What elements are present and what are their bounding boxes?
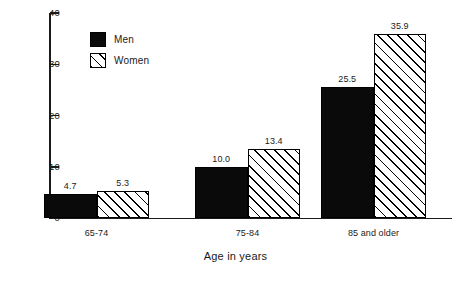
legend: Men Women: [90, 29, 149, 71]
x-axis-title: Age in years: [0, 250, 471, 262]
bar-women-2: [374, 34, 427, 218]
bar-value-label: 4.7: [44, 181, 97, 191]
diagonal-hatch-swatch-icon: [90, 53, 106, 68]
bar-men-2: [321, 87, 374, 218]
legend-label-men: Men: [114, 34, 134, 45]
bar-men-1: [195, 167, 248, 218]
bar-value-label: 25.5: [321, 74, 374, 84]
bar-value-label: 10.0: [195, 154, 248, 164]
bar-value-label: 13.4: [248, 136, 301, 146]
bar-chart-figure: 010203040 4.75.310.013.425.535.9 65-7475…: [0, 0, 471, 289]
legend-item-men: Men: [90, 29, 149, 50]
category-label-0: 65-74: [37, 228, 157, 238]
category-label-2: 85 and older: [314, 228, 434, 238]
solid-black-swatch-icon: [90, 32, 106, 47]
category-label-1: 75-84: [188, 228, 308, 238]
bar-men-0: [44, 194, 97, 218]
legend-item-women: Women: [90, 50, 149, 71]
bar-value-label: 5.3: [97, 178, 150, 188]
bar-women-1: [248, 149, 301, 218]
legend-label-women: Women: [114, 55, 149, 66]
bar-value-label: 35.9: [374, 21, 427, 31]
bar-women-0: [97, 191, 150, 218]
